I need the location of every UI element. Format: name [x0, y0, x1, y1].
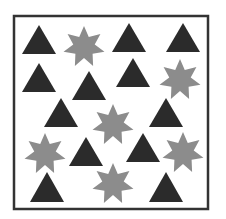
shapes-figure	[0, 0, 226, 219]
